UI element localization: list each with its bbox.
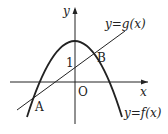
y-axis-label: y bbox=[63, 5, 70, 17]
function-graph-figure: y x O 1 B A y=g(x) y=f(x) bbox=[0, 0, 168, 134]
origin-label: O bbox=[78, 86, 88, 98]
point-b-label: B bbox=[97, 52, 106, 64]
parabola-f-label: y=f(x) bbox=[124, 107, 161, 119]
line-g bbox=[17, 31, 125, 110]
y-intercept-label: 1 bbox=[66, 57, 74, 69]
point-a-label: A bbox=[35, 101, 44, 113]
y-axis-arrow-icon bbox=[73, 7, 78, 14]
line-g-label: y=g(x) bbox=[105, 18, 146, 30]
x-axis-label: x bbox=[140, 86, 147, 98]
x-axis-arrow-icon bbox=[141, 80, 148, 85]
